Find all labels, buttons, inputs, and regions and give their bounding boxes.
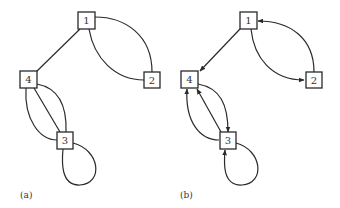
svg-text:3: 3 xyxy=(225,135,231,146)
svg-text:4: 4 xyxy=(186,74,192,85)
edge-b-4-to-3 xyxy=(198,84,228,132)
node-b-1: 1 xyxy=(240,12,257,29)
node-b-2: 2 xyxy=(306,72,322,88)
svg-text:2: 2 xyxy=(311,75,317,86)
panel-a: 1 2 3 4 (a) xyxy=(20,12,160,200)
panel-label-a: (a) xyxy=(20,190,32,200)
edge-a-4-3-right xyxy=(37,84,66,132)
svg-text:1: 1 xyxy=(245,15,251,26)
edge-a-1-2-upper xyxy=(95,17,152,72)
edge-a-1-4 xyxy=(36,29,80,72)
panel-label-b: (b) xyxy=(180,190,193,200)
svg-text:4: 4 xyxy=(25,74,31,85)
edge-b-1-to-4 xyxy=(200,29,240,71)
node-b-3: 3 xyxy=(220,132,236,149)
node-a-2: 2 xyxy=(144,72,160,88)
svg-text:2: 2 xyxy=(149,75,155,86)
edge-a-4-3-left xyxy=(26,88,57,140)
edge-a-1-2-lower xyxy=(89,29,144,80)
node-a-3: 3 xyxy=(57,132,73,149)
node-b-4: 4 xyxy=(181,71,198,88)
node-a-4: 4 xyxy=(20,71,37,88)
panel-b: 1 2 3 4 (b) xyxy=(180,12,322,200)
node-a-1: 1 xyxy=(78,12,95,29)
edge-b-1-to-2 xyxy=(251,29,304,80)
edge-b-3-to-4-left xyxy=(187,89,219,140)
svg-text:1: 1 xyxy=(83,15,89,26)
graph-figure: 1 2 3 4 (a) 1 2 xyxy=(0,0,340,208)
edge-b-3-to-4-straight xyxy=(197,89,221,132)
svg-text:3: 3 xyxy=(62,135,68,146)
